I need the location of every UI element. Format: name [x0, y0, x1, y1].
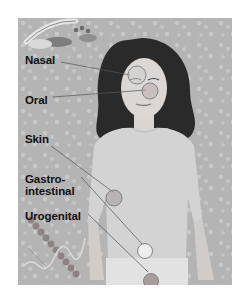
label-gastrointestinal-line1: Gastro- [25, 173, 65, 185]
oral-site-marker [142, 83, 158, 99]
label-gastrointestinal-line2: intestinal [25, 185, 74, 197]
nasal-site-marker [128, 66, 146, 84]
label-oral: Oral [25, 94, 48, 106]
gastrointestinal-site-marker [138, 244, 153, 259]
label-urogenital: Urogenital [25, 210, 81, 222]
skin-site-marker [106, 190, 122, 206]
urogenital-site-marker [144, 274, 159, 286]
label-nasal: Nasal [25, 54, 55, 66]
label-skin: Skin [25, 133, 49, 145]
